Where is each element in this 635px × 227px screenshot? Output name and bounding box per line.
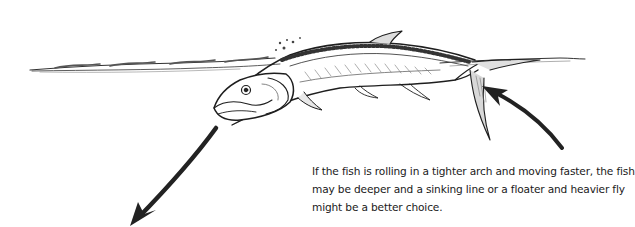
tarpon-fish <box>214 31 540 140</box>
splash-bubbles <box>275 37 301 51</box>
arrow-into-water <box>130 128 216 226</box>
arrow-out-of-water <box>482 86 562 148</box>
figure-caption: If the fish is rolling in a tighter arch… <box>312 162 612 216</box>
caption-line-2: may be deeper and a sinking line or a fl… <box>312 180 612 198</box>
caption-line-3: might be a better choice. <box>312 198 612 216</box>
caption-line-1: If the fish is rolling in a tighter arch… <box>312 162 612 180</box>
